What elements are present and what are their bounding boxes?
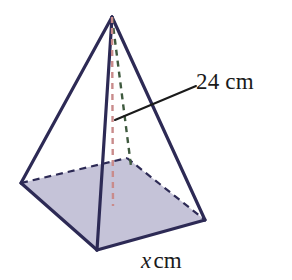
pyramid-figure: 24 cm xcm [0, 0, 292, 280]
base-edge-unit: cm [153, 248, 182, 273]
height-label-text: 24 cm [196, 69, 254, 94]
base-edge-label: xcm [141, 249, 182, 272]
pyramid-drawing [0, 0, 292, 280]
lateral-edge-left [21, 17, 112, 183]
height-label: 24 cm [196, 70, 254, 93]
base-edge-variable: x [141, 248, 153, 273]
